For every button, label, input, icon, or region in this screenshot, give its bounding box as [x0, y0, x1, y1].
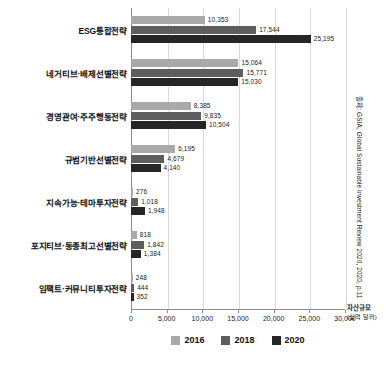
bar-groups: 10,35317,54425,19515,06415,77115,0308,38… — [131, 8, 345, 309]
x-tick-label: 5,000 — [158, 315, 176, 322]
category-label: 경영관여·주주행동전략 — [0, 110, 127, 122]
bar-value-label: 4,679 — [167, 155, 184, 163]
bar — [131, 16, 205, 24]
category-label: 규범기반선별전략 — [0, 153, 127, 165]
bar-row: 1,948 — [131, 207, 345, 215]
bar-row: 1,384 — [131, 250, 345, 258]
bar — [131, 250, 141, 258]
bar-value-label: 15,771 — [246, 69, 266, 77]
bar-row: 17,544 — [131, 26, 345, 34]
bar-value-label: 1,018 — [141, 198, 158, 206]
legend-swatch — [221, 336, 230, 345]
bar-row: 15,064 — [131, 59, 345, 67]
bar — [131, 69, 243, 77]
x-tick-mark — [238, 310, 239, 313]
bar-value-label: 444 — [137, 284, 148, 292]
bar-row: 8,385 — [131, 102, 345, 110]
bar-row: 444 — [131, 284, 345, 292]
category-label: ESG통합전략 — [0, 24, 127, 36]
x-tick-mark — [167, 310, 168, 313]
bar-value-label: 1,948 — [148, 207, 165, 215]
legend-item[interactable]: 2016 — [171, 335, 204, 345]
bar — [131, 59, 238, 67]
chart-figure: ESG통합전략네거티브·배제선별전략경영관여·주주행동전략규범기반선별전략지속가… — [0, 0, 388, 370]
bar-value-label: 276 — [136, 188, 147, 196]
bar-row: 248 — [131, 274, 345, 282]
bar — [131, 188, 133, 196]
category-label: 포지티브·동종최고선별전략 — [0, 239, 127, 251]
legend-swatch — [171, 336, 180, 345]
bar — [131, 35, 311, 43]
bar-row: 15,771 — [131, 69, 345, 77]
legend-item[interactable]: 2018 — [221, 335, 254, 345]
category-label: 임팩트·커뮤니티투자전략 — [0, 282, 127, 294]
x-tick-label: 10,000 — [192, 315, 213, 322]
bar-row: 15,030 — [131, 78, 345, 86]
bar — [131, 241, 144, 249]
category-label: 지속가능·테마투자전략 — [0, 196, 127, 208]
bar-value-label: 248 — [136, 274, 147, 282]
bar-row: 818 — [131, 231, 345, 239]
x-tick-label: 0 — [129, 315, 133, 322]
x-axis-ticks: 05,00010,00015,00020,00025,00030,000 — [131, 310, 345, 324]
x-tick-mark — [309, 310, 310, 313]
bar-value-label: 1,384 — [144, 250, 161, 258]
bar-value-label: 10,504 — [209, 121, 229, 129]
legend-label: 2018 — [234, 335, 254, 345]
bar — [131, 164, 161, 172]
bar — [131, 198, 138, 206]
x-tick-label: 15,000 — [227, 315, 248, 322]
bar — [131, 112, 201, 120]
gridline — [346, 8, 347, 309]
bar-value-label: 17,544 — [259, 26, 279, 34]
bar — [131, 121, 206, 129]
bar-row: 10,353 — [131, 16, 345, 24]
bar-value-label: 25,195 — [314, 35, 334, 43]
bar-row: 10,504 — [131, 121, 345, 129]
legend-swatch — [272, 336, 281, 345]
legend-label: 2016 — [184, 335, 204, 345]
bar — [131, 78, 238, 86]
bar — [131, 284, 134, 292]
bar — [131, 26, 256, 34]
category-label: 네거티브·배제선별전략 — [0, 67, 127, 79]
bar-value-label: 10,353 — [208, 16, 228, 24]
bar-value-label: 818 — [140, 231, 151, 239]
bar — [131, 274, 133, 282]
bar-row: 1,018 — [131, 198, 345, 206]
legend-item[interactable]: 2020 — [272, 335, 305, 345]
bar-value-label: 8,385 — [194, 102, 211, 110]
category-axis-labels: ESG통합전략네거티브·배제선별전략경영관여·주주행동전략규범기반선별전략지속가… — [0, 8, 127, 309]
bar — [131, 102, 191, 110]
bar — [131, 145, 175, 153]
x-tick-mark — [131, 310, 132, 313]
bar-row: 6,195 — [131, 145, 345, 153]
bar-row: 25,195 — [131, 35, 345, 43]
bar — [131, 207, 145, 215]
bar-row: 1,842 — [131, 241, 345, 249]
bar — [131, 293, 134, 301]
x-tick-label: 20,000 — [263, 315, 284, 322]
bar — [131, 231, 137, 239]
bar-value-label: 4,140 — [164, 164, 181, 172]
bar-row: 9,835 — [131, 112, 345, 120]
bar-value-label: 15,064 — [241, 59, 261, 67]
x-tick-mark — [274, 310, 275, 313]
bar-row: 4,679 — [131, 155, 345, 163]
x-tick-label: 25,000 — [299, 315, 320, 322]
bar-value-label: 1,842 — [147, 241, 164, 249]
bar-row: 4,140 — [131, 164, 345, 172]
bar-value-label: 9,835 — [204, 112, 221, 120]
bar-value-label: 6,195 — [178, 145, 195, 153]
bar — [131, 155, 164, 163]
legend-label: 2020 — [285, 335, 305, 345]
bar-row: 276 — [131, 188, 345, 196]
x-tick-mark — [345, 310, 346, 313]
bar-row: 352 — [131, 293, 345, 301]
x-tick-mark — [202, 310, 203, 313]
bar-value-label: 15,030 — [241, 78, 261, 86]
source-note: 출처: GSIA, Global Sustainable Investment … — [355, 96, 365, 326]
chart-legend: 201620182020 — [131, 335, 345, 345]
bar-value-label: 352 — [137, 293, 148, 301]
